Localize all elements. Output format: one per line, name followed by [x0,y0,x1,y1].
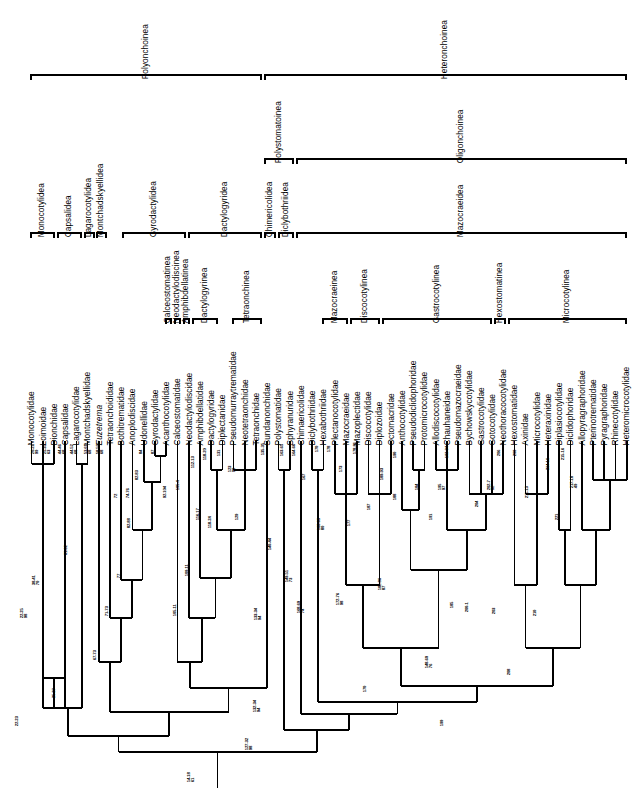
node-character-label: 72 [114,494,118,498]
node-character-label: 204 [475,501,479,508]
node-character-label: 173 [339,466,343,473]
node-support-label: 70 [36,581,40,585]
node-character-label: 178 [327,446,331,453]
node-character-label: 221 [555,514,559,521]
node-character-label: 214-16 [546,458,550,470]
node-character-label: 167 [302,474,306,481]
node-character-label: 170 [363,686,367,693]
node-character-label: 71-73 [105,606,109,616]
node-support-label: 73 [289,578,293,582]
node-character-label: 215-16 [561,448,565,460]
node-character-label: 203 [492,608,496,615]
node-support-label: 68 [62,450,66,454]
node-character-label: 208 [507,669,511,676]
node-support-label: 98 [249,746,253,750]
node-character-label: 192-94 [445,446,449,458]
node-character-label: 131 [217,450,221,457]
node-character-label: 77 [117,574,121,578]
node-character-label: 82-88 [127,518,131,528]
node-character-label: 74-76 [126,488,130,498]
node-support-label: 68 [100,450,104,454]
node-character-label: 92-104 [163,486,167,498]
node-support-label: 63 [47,450,51,454]
node-character-label: 105-11 [173,604,177,616]
node-support-label: 74 [301,609,305,613]
node-character-label: 61-62 [64,545,68,555]
node-support-label: 61 [191,778,195,782]
node-support-label: 68 [74,450,78,454]
node-character-label: 87 [151,450,155,454]
node-character-label: 112-13 [191,456,195,468]
node-character-label: 105-4 [176,480,180,490]
node-character-label: 177 [347,520,351,527]
node-character-label: 185 [450,602,454,609]
node-support-label: 68 [88,450,92,454]
node-character-label: 211-13 [525,486,529,498]
node-character-label: 135-35 [261,443,265,455]
node-character-label: 178-81 [353,442,357,454]
node-label-layer: 20-219925-336344-466844-526853-616858-59… [0,0,639,788]
node-character-label: 109-11 [185,564,189,576]
phylogenetic-tree-figure: PolyonchoineaHeteronchoineaPolystomatoin… [0,0,639,788]
node-support-label: 97 [442,486,446,490]
node-character-label: 191 [429,514,433,521]
node-character-label: 82-83 [135,470,139,480]
node-support-label: 49 [574,484,578,488]
node-character-label: 129 [235,514,239,521]
node-character-label: 67-73 [93,650,97,660]
node-character-label: 208 [513,450,517,457]
node-support-label: 94 [257,708,261,712]
node-character-label: 200-1 [465,602,469,612]
node-character-label: 188 [393,494,397,501]
node-support-label: 98 [24,614,28,618]
node-support-label: 99 [35,450,39,454]
node-support-label: 94 [258,616,262,620]
node-character-label: 170 [315,446,319,453]
node-character-label: 22-23 [15,716,19,726]
node-character-label: 190 [393,452,397,459]
node-support-label: 90 [232,468,236,472]
node-support-label: 92 [491,486,495,490]
node-support-label: 80 [321,526,325,530]
node-character-label: 118-20 [203,448,207,460]
node-support-label: 98 [340,601,344,605]
node-character-label: 118-24 [208,516,212,528]
node-support-label: 87 [382,586,386,590]
node-character-label: 189-93 [380,468,384,480]
node-character-label: 25-27 [52,688,56,698]
node-character-label: 163-65 [280,444,284,456]
node-character-label: 84 [139,450,143,454]
node-character-label: 187 [367,504,371,511]
node-character-label: 116-17 [196,508,200,520]
node-character-label: 184 [415,484,419,491]
node-character-label: 140-44 [268,538,272,550]
node-character-label: 164-66 [292,444,296,456]
node-support-label: 76 [429,664,433,668]
node-character-label: 210 [533,610,537,617]
node-character-label: 199 [440,720,444,727]
node-character-label: 206 [497,450,501,457]
